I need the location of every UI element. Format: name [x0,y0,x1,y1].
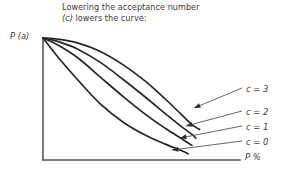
pointer-line-c2 [186,111,242,126]
curve-label-c1: c = 1 [246,122,268,132]
caption-line-2-rest: lowers the curve: [73,13,147,23]
oc-curve-figure: Lowering the acceptance number(c) lowers… [0,0,284,179]
plot-area [0,0,284,179]
curve-label-c0: c = 0 [246,137,268,147]
pointer-arrowhead-c3 [194,103,201,108]
oc-curve-c2 [43,38,196,138]
oc-curve-c0 [43,38,188,154]
figure-caption: Lowering the acceptance number(c) lowers… [62,2,242,25]
oc-curve-c1 [43,38,192,145]
x-axis-label: P % [245,152,261,162]
caption-acceptance-number-symbol: (c) [62,13,73,23]
y-axis-label: P (a) [10,31,29,41]
oc-curve-c3 [43,38,200,130]
annotation-pointers-group [172,88,242,152]
curves-group [43,38,200,154]
axes-group [43,38,240,160]
pointer-line-c3 [194,88,242,108]
pointer-line-c0 [172,141,242,150]
curve-label-c2: c = 2 [246,107,268,117]
caption-line-1: Lowering the acceptance number [62,2,200,12]
curve-label-c3: c = 3 [246,84,268,94]
